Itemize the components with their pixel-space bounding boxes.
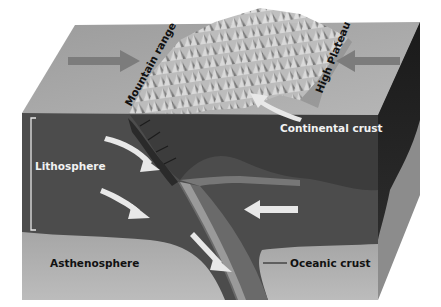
label-continental-crust: Continental crust bbox=[280, 122, 383, 134]
label-asthenosphere: Asthenosphere bbox=[50, 257, 139, 269]
label-oceanic-crust: Oceanic crust bbox=[290, 257, 370, 269]
front-face bbox=[22, 113, 378, 300]
label-lithosphere: Lithosphere bbox=[35, 160, 106, 172]
plate-tectonics-diagram: Mountain range High Plateau Continental … bbox=[0, 0, 441, 307]
